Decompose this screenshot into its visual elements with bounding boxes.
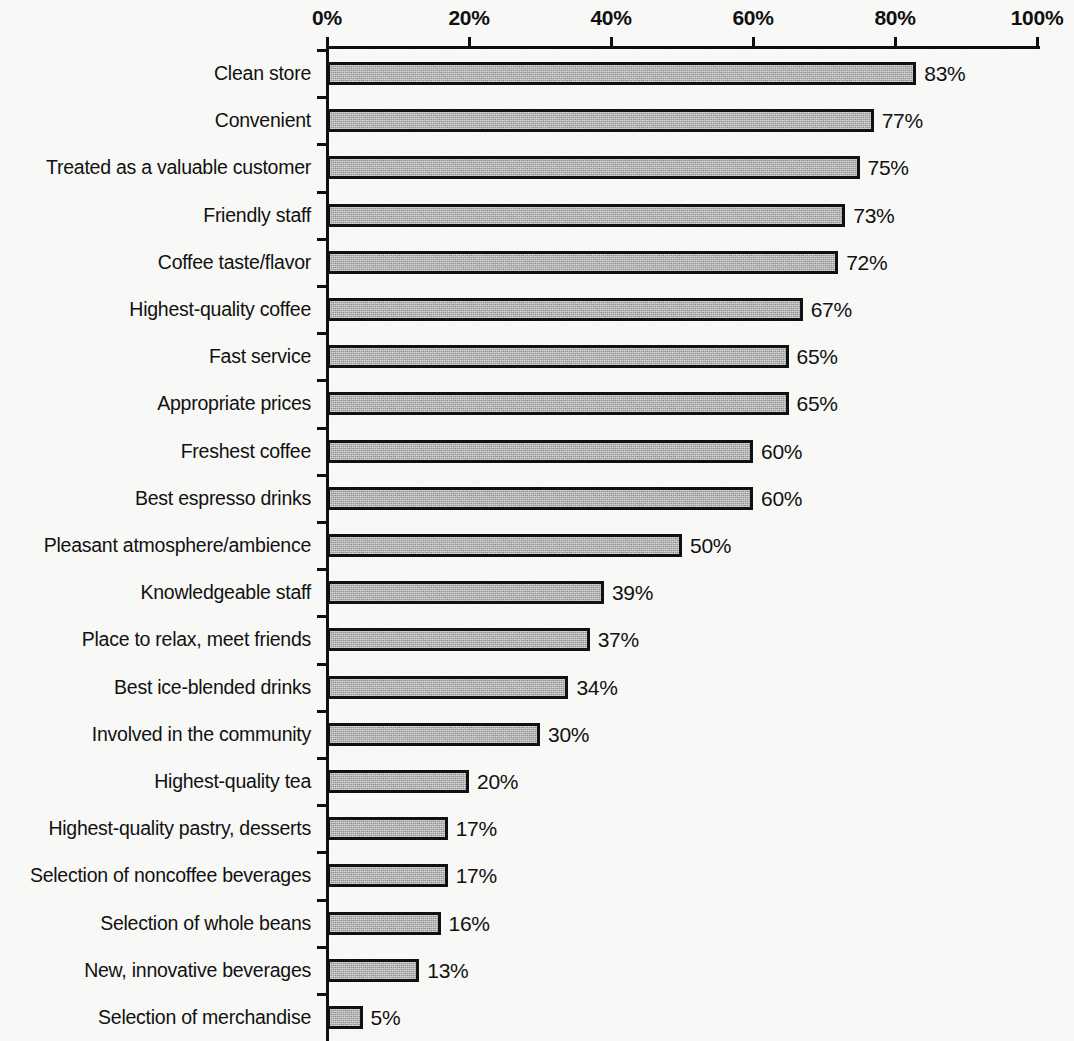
chart-row: Highest-quality pastry, desserts17% [0, 817, 1074, 840]
y-axis-tick [317, 49, 326, 52]
bar [327, 912, 441, 935]
chart-row: Place to relax, meet friends37% [0, 628, 1074, 651]
chart-row: Treated as a valuable customer75% [0, 156, 1074, 179]
chart-row: Highest-quality tea20% [0, 770, 1074, 793]
chart-row: Clean store83% [0, 62, 1074, 85]
bar-value-label: 17% [456, 865, 497, 886]
bar [327, 770, 469, 793]
x-axis-tick [752, 37, 755, 47]
category-label: Appropriate prices [0, 394, 311, 414]
category-label: Selection of merchandise [0, 1008, 311, 1028]
y-axis-tick [317, 663, 326, 666]
bar-value-label: 13% [427, 960, 468, 981]
y-axis-tick [317, 710, 326, 713]
bar-value-label: 50% [690, 535, 731, 556]
bar-value-label: 65% [797, 393, 838, 414]
category-label: Selection of whole beans [0, 914, 311, 934]
bar [327, 345, 789, 368]
category-label: Involved in the community [0, 725, 311, 745]
category-label: Treated as a valuable customer [0, 158, 311, 178]
category-label: Best espresso drinks [0, 489, 311, 509]
chart-row: New, innovative beverages13% [0, 959, 1074, 982]
x-axis-tick-label: 60% [732, 6, 773, 30]
x-axis-tick [610, 37, 613, 47]
category-label: Friendly staff [0, 206, 311, 226]
x-axis-tick-label: 40% [590, 6, 631, 30]
bar-value-label: 65% [797, 346, 838, 367]
category-label: Selection of noncoffee beverages [0, 866, 311, 886]
bar-value-label: 34% [576, 677, 617, 698]
bar-value-label: 20% [477, 771, 518, 792]
bar [327, 534, 682, 557]
bar [327, 487, 753, 510]
bar [327, 676, 568, 699]
bar [327, 628, 590, 651]
y-axis-tick [317, 568, 326, 571]
y-axis-tick [317, 899, 326, 902]
category-label: Highest-quality pastry, desserts [0, 819, 311, 839]
x-axis-tick [894, 37, 897, 47]
bar-value-label: 16% [449, 913, 490, 934]
chart-row: Involved in the community30% [0, 723, 1074, 746]
bar [327, 723, 540, 746]
bar [327, 109, 874, 132]
bar-value-label: 30% [548, 724, 589, 745]
category-label: Clean store [0, 64, 311, 84]
x-axis-tick-label: 80% [874, 6, 915, 30]
y-axis-tick [317, 804, 326, 807]
bar [327, 298, 803, 321]
bar [327, 156, 860, 179]
chart-row: Selection of merchandise5% [0, 1006, 1074, 1029]
chart-row: Best espresso drinks60% [0, 487, 1074, 510]
bar [327, 440, 753, 463]
y-axis-tick [317, 191, 326, 194]
bar [327, 392, 789, 415]
category-label: Highest-quality tea [0, 772, 311, 792]
chart-row: Highest-quality coffee67% [0, 298, 1074, 321]
category-label: New, innovative beverages [0, 961, 311, 981]
bar-value-label: 17% [456, 818, 497, 839]
bar [327, 1006, 363, 1029]
bar-value-label: 73% [853, 205, 894, 226]
bar-value-label: 39% [612, 582, 653, 603]
x-axis-line [327, 46, 1040, 49]
y-axis-tick [317, 993, 326, 996]
y-axis-tick [317, 851, 326, 854]
bar-value-label: 60% [761, 488, 802, 509]
category-label: Coffee taste/flavor [0, 253, 311, 273]
y-axis-tick [317, 427, 326, 430]
y-axis-tick [317, 285, 326, 288]
x-axis-tick [468, 37, 471, 47]
bar [327, 959, 419, 982]
bar-value-label: 83% [924, 63, 965, 84]
y-axis-tick [317, 474, 326, 477]
y-axis-tick [317, 615, 326, 618]
y-axis-tick [317, 332, 326, 335]
bar [327, 817, 448, 840]
y-axis-tick [317, 379, 326, 382]
category-label: Knowledgeable staff [0, 583, 311, 603]
category-label: Convenient [0, 111, 311, 131]
bar [327, 251, 838, 274]
y-axis-tick [317, 946, 326, 949]
y-axis-tick [317, 96, 326, 99]
chart-row: Fast service65% [0, 345, 1074, 368]
y-axis-tick [317, 143, 326, 146]
bar-value-label: 37% [598, 629, 639, 650]
bar-value-label: 60% [761, 441, 802, 462]
chart-row: Best ice-blended drinks34% [0, 676, 1074, 699]
category-label: Fast service [0, 347, 311, 367]
bar-value-label: 72% [846, 252, 887, 273]
category-label: Best ice-blended drinks [0, 678, 311, 698]
bar-value-label: 77% [882, 110, 923, 131]
y-axis-tick [317, 238, 326, 241]
chart-row: Convenient77% [0, 109, 1074, 132]
y-axis-tick [317, 521, 326, 524]
bar-value-label: 5% [371, 1007, 401, 1028]
chart-row: Selection of noncoffee beverages17% [0, 864, 1074, 887]
bar [327, 864, 448, 887]
chart-row: Friendly staff73% [0, 204, 1074, 227]
category-label: Freshest coffee [0, 442, 311, 462]
category-label: Highest-quality coffee [0, 300, 311, 320]
chart-row: Coffee taste/flavor72% [0, 251, 1074, 274]
